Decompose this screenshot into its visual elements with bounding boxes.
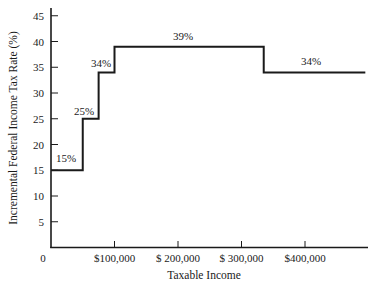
x-axis-ticks: 0$100,000$ 200,000$ 300,000$400,000 [40, 241, 326, 264]
rate-labels: 15%25%34%39%34% [56, 30, 321, 164]
rate-label: 15% [56, 152, 76, 164]
x-tick-label: 0 [40, 252, 46, 264]
y-tick-label: 40 [33, 36, 45, 48]
tax-rate-step-chart: 51015202530354045 0$100,000$ 200,000$ 30… [0, 0, 375, 289]
rate-label: 34% [91, 57, 111, 69]
y-tick-label: 45 [33, 10, 45, 22]
x-tick-label: $ 300,000 [220, 252, 265, 264]
y-tick-label: 15 [33, 164, 45, 176]
y-tick-label: 30 [33, 87, 45, 99]
y-tick-label: 20 [33, 139, 45, 151]
y-tick-label: 10 [33, 190, 45, 202]
y-tick-label: 25 [33, 113, 45, 125]
x-tick-label: $400,000 [284, 252, 326, 264]
rate-label: 34% [301, 55, 321, 67]
rate-label: 25% [74, 105, 94, 117]
rate-label: 39% [173, 30, 193, 42]
y-axis-title: Incremental Federal Income Tax Rate (%) [7, 31, 20, 225]
x-tick-label: $100,000 [94, 252, 136, 264]
x-axis-title: Taxable Income [167, 269, 241, 281]
y-tick-label: 35 [33, 61, 45, 73]
x-tick-label: $ 200,000 [156, 252, 201, 264]
y-tick-label: 5 [39, 216, 45, 228]
y-axis-ticks: 51015202530354045 [33, 10, 58, 228]
